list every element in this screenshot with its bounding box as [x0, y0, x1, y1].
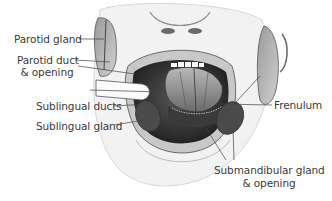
label-submandibular-line1: Submandibular gland: [214, 164, 324, 176]
parotid-gland-right: [257, 26, 287, 104]
label-sublingual-gland: Sublingual gland: [36, 120, 122, 132]
label-parotid-duct-line1: Parotid duct: [17, 54, 77, 66]
label-parotid-gland: Parotid gland: [14, 33, 82, 45]
salivary-glands-illustration: Parotid gland Parotid duct & opening Sub…: [0, 0, 332, 201]
label-submandibular-line2: & opening: [214, 177, 324, 189]
parotid-gland-left: [94, 18, 116, 77]
label-parotid-duct-line2: & opening: [17, 66, 77, 78]
label-sublingual-ducts: Sublingual ducts: [36, 100, 122, 112]
label-frenulum: Frenulum: [274, 99, 322, 111]
